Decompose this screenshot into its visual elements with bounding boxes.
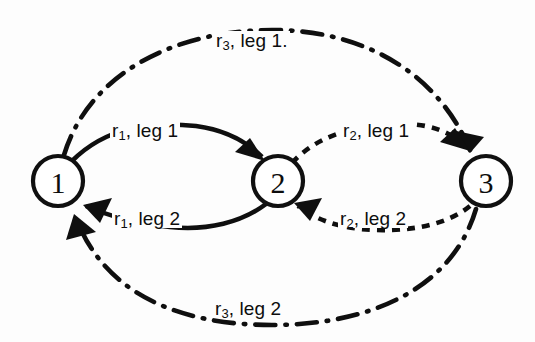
edge-label-r1-leg2: r1, leg 2 <box>112 209 182 228</box>
edge-label-r3-leg1-subscript: 3 <box>222 38 229 53</box>
node-2-label: 2 <box>271 166 286 199</box>
edge-label-r1-leg1-rest: , leg 1 <box>126 120 178 141</box>
edge-label-r3-leg2: r3, leg 2 <box>213 299 283 318</box>
node-1[interactable]: 1 <box>33 156 83 206</box>
edge-label-r3-leg1: r3, leg 1. <box>214 31 290 50</box>
edge-label-r3-leg2-subscript: 3 <box>221 306 228 321</box>
edge-label-r2-leg2-subscript: 2 <box>346 216 353 231</box>
node-1-label: 1 <box>51 166 66 199</box>
edge-r3-leg2-arrowhead <box>66 214 96 240</box>
edge-label-r2-leg1: r2, leg 1 <box>341 121 411 140</box>
edge-label-r1-leg1: r1, leg 1 <box>110 121 180 140</box>
edge-label-r2-leg1-rest: , leg 1 <box>357 120 409 141</box>
edge-label-r3-leg1-rest: , leg 1. <box>230 30 288 51</box>
route-leg-graph: 1 2 3 <box>0 0 535 342</box>
edge-r1-leg2-arrowhead <box>83 198 112 223</box>
edge-label-r1-leg2-subscript: 1 <box>120 216 127 231</box>
node-3-label: 3 <box>479 166 494 199</box>
edge-r2-leg2-arrowhead <box>294 198 322 221</box>
node-3[interactable]: 3 <box>461 156 511 206</box>
diagram-canvas: 1 2 3 r1, leg 1 r1, leg 2 r2, leg 1 r2, … <box>0 0 535 342</box>
edge-label-r1-leg2-rest: , leg 2 <box>128 208 180 229</box>
edge-label-r2-leg2-rest: , leg 2 <box>354 208 406 229</box>
edge-label-r1-leg1-subscript: 1 <box>118 128 125 143</box>
node-2[interactable]: 2 <box>253 156 303 206</box>
edge-label-r3-leg2-rest: , leg 2 <box>229 298 281 319</box>
edge-label-r2-leg1-subscript: 2 <box>349 128 356 143</box>
edge-label-r2-leg2: r2, leg 2 <box>338 209 408 228</box>
